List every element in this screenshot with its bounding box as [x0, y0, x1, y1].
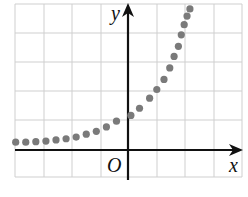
data-point [93, 128, 100, 135]
origin-label: O [107, 154, 121, 176]
data-point [22, 139, 29, 146]
data-point [73, 133, 80, 140]
data-point [52, 136, 59, 143]
data-point [42, 137, 49, 144]
x-axis-label: x [228, 154, 238, 176]
data-point [136, 105, 143, 112]
data-point [153, 86, 160, 93]
data-point [12, 139, 19, 146]
data-point [146, 95, 153, 102]
data-point [103, 123, 110, 130]
data-point [170, 53, 177, 60]
data-point [183, 12, 190, 19]
data-points [12, 5, 193, 146]
data-point [83, 131, 90, 138]
data-point [160, 76, 167, 83]
data-point [113, 118, 120, 125]
data-point [186, 5, 193, 12]
data-point [32, 138, 39, 145]
exponential-dot-plot: y x O [0, 0, 248, 197]
y-axis-label: y [109, 2, 120, 25]
data-point [175, 43, 182, 50]
data-point [62, 135, 69, 142]
data-point [166, 64, 173, 71]
data-point [127, 112, 134, 119]
data-point [178, 31, 185, 38]
data-point [181, 21, 188, 28]
